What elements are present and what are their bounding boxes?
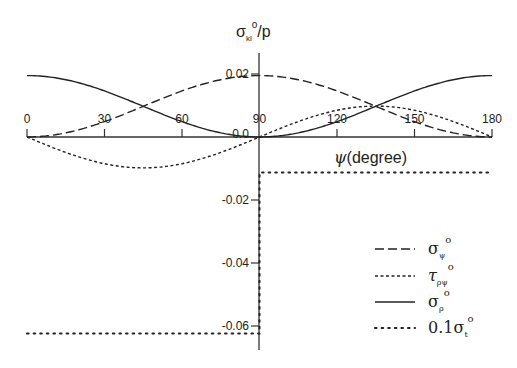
x-axis-title: ψ(degree) (334, 148, 407, 167)
y-tick-label: -0.04 (222, 256, 250, 270)
legend-label: σρo (428, 287, 450, 313)
y-tick-label: -0.02 (222, 193, 250, 207)
legend: σψoτρψoσρo0.1σto (375, 234, 474, 339)
x-tick-label: 180 (482, 112, 502, 126)
y-tick-label: 0.02 (226, 67, 250, 81)
y-ticks: 0.02-0.02-0.04-0.060.0 (222, 67, 259, 333)
y-zero-label: 0.0 (232, 127, 249, 141)
legend-label: 0.1σto (428, 313, 474, 339)
y-axis-title: σklo/p (236, 19, 271, 43)
stress-chart: 0306090120150180 0.02-0.02-0.04-0.060.0 … (0, 0, 517, 368)
x-tick-label: 30 (98, 112, 112, 126)
x-tick-label: 0 (24, 112, 31, 126)
x-tick-label: 90 (253, 112, 267, 126)
legend-label: σψo (428, 234, 451, 260)
y-tick-label: -0.06 (222, 319, 250, 333)
legend-label: τρψo (428, 261, 454, 287)
